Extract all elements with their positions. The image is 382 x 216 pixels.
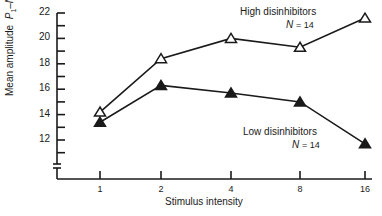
filled-triangle-marker (95, 117, 106, 126)
legend-low-n: N = 14 (292, 139, 320, 150)
line-chart (0, 0, 382, 216)
x-tick-label: 1 (90, 184, 110, 194)
x-tick-label: 4 (221, 184, 241, 194)
y-tick-label: 20 (30, 31, 50, 42)
open-triangle-marker (360, 13, 371, 22)
legend-high-label: High disinhibitors (240, 6, 316, 17)
legend-low-label: Low disinhibitors (243, 126, 317, 137)
x-axis-label: Stimulus intensity (165, 196, 243, 207)
filled-triangle-marker (360, 139, 371, 148)
y-tick-label: 16 (30, 82, 50, 93)
y-tick-label: 22 (30, 6, 50, 17)
legend-high-n: N = 14 (286, 19, 314, 30)
x-tick-label: 8 (290, 184, 310, 194)
open-triangle-marker (226, 33, 237, 42)
filled-triangle-marker (156, 80, 167, 89)
y-tick-label: 12 (30, 133, 50, 144)
x-tick-label: 2 (151, 184, 171, 194)
y-tick-label: 18 (30, 57, 50, 68)
axes (53, 13, 372, 179)
x-tick-label: 16 (355, 184, 375, 194)
y-tick-label: 14 (30, 108, 50, 119)
y-axis-label: Mean amplitude P1–N1 (4, 0, 17, 96)
